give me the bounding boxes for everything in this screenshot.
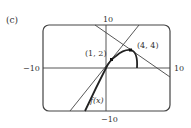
point-4-4 (129, 49, 132, 52)
point-1-2 (110, 58, 113, 61)
point-label-1-2: (1, 2) (85, 49, 107, 58)
point-label-4-4: (4, 4) (137, 41, 159, 50)
x-min-label: −10 (23, 64, 40, 73)
y-max-label: 10 (103, 15, 113, 24)
x-max-label: 10 (174, 64, 184, 73)
function-label: f(x) (89, 96, 104, 105)
graph: 10 −10 −10 10 (1, 2) (4, 4) f(x) (0, 0, 191, 128)
y-min-label: −10 (101, 115, 118, 124)
